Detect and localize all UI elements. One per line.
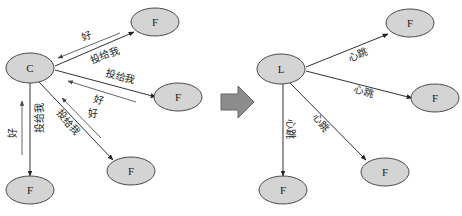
follower-node-top: F — [386, 9, 434, 37]
candidate-node: C — [6, 53, 54, 83]
node-label: F — [128, 165, 134, 177]
heartbeat-edge-top — [306, 34, 388, 67]
follower-node-bottom-right: F — [107, 157, 155, 185]
follower-node-bottom: F — [259, 176, 307, 204]
request-label-right: 投给我 — [104, 66, 136, 85]
node-label: F — [382, 166, 388, 178]
node-label: F — [280, 184, 286, 196]
heartbeat-label-bottom: 心跳 — [285, 119, 297, 139]
right-block-arrow-icon — [221, 86, 254, 118]
reply-label-bottom-right: 好 — [88, 108, 98, 119]
node-label: L — [278, 63, 285, 75]
node-label: F — [175, 91, 181, 103]
leader-node: L — [257, 54, 305, 84]
node-label: F — [432, 92, 438, 104]
follower-node-right: F — [411, 84, 459, 112]
request-label-top: 投给我 — [88, 43, 120, 65]
reply-label-top: 好 — [80, 29, 93, 43]
heartbeat-label-top: 心跳 — [346, 45, 369, 64]
follower-node-bottom-right: F — [361, 158, 409, 186]
diagram-canvas: 好 投给我 投给我 好 好 投给我 投给我 好 C F F F F — [0, 0, 462, 216]
follower-node-right: F — [154, 83, 202, 111]
vote-request-edge-bottom-right — [39, 82, 113, 160]
heartbeat-label-bottom-right: 心跳 — [310, 111, 332, 134]
node-label: C — [26, 62, 33, 74]
node-label: F — [407, 17, 413, 29]
request-label-bottom: 投给我 — [33, 103, 45, 133]
reply-label-bottom: 好 — [7, 128, 18, 138]
node-label: F — [27, 184, 33, 196]
node-label: F — [152, 16, 158, 28]
heartbeat-label-right: 心跳 — [352, 82, 374, 99]
follower-node-top: F — [131, 8, 179, 36]
right-diagram: 心跳 心跳 心跳 心跳 L F F F F — [257, 9, 459, 204]
reply-label-right: 好 — [92, 93, 105, 106]
left-diagram: 好 投给我 投给我 好 好 投给我 投给我 好 C F F F F — [6, 8, 202, 204]
request-label-bottom-right: 投给我 — [54, 107, 82, 138]
follower-node-bottom: F — [6, 176, 54, 204]
